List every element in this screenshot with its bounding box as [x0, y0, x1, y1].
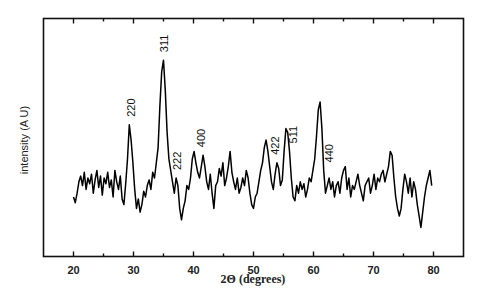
x-tick-label: 60 — [307, 264, 319, 276]
peak-label-422: 422 — [269, 136, 281, 154]
peak-label-220: 220 — [125, 98, 137, 116]
x-tick-label: 30 — [127, 264, 139, 276]
x-tick-label: 40 — [187, 264, 199, 276]
x-tick-label: 70 — [367, 264, 379, 276]
y-axis-label: intensity (A U) — [18, 106, 30, 174]
peak-labels: 220311222400422511440 — [125, 35, 334, 170]
plot-frame — [44, 19, 464, 257]
x-tick-label: 20 — [67, 264, 79, 276]
peak-label-311: 311 — [158, 35, 170, 53]
x-axis-label: 2Θ (degrees) — [221, 272, 286, 286]
peak-label-400: 400 — [195, 129, 207, 147]
peak-label-511: 511 — [287, 126, 299, 144]
x-axis-ticks — [74, 19, 434, 257]
peak-label-222: 222 — [171, 152, 183, 170]
xrd-chart: 20304050607080 220311222400422511440 2Θ … — [0, 0, 487, 303]
peak-label-440: 440 — [323, 144, 335, 162]
xrd-series-line — [74, 60, 432, 227]
x-tick-label: 80 — [427, 264, 439, 276]
